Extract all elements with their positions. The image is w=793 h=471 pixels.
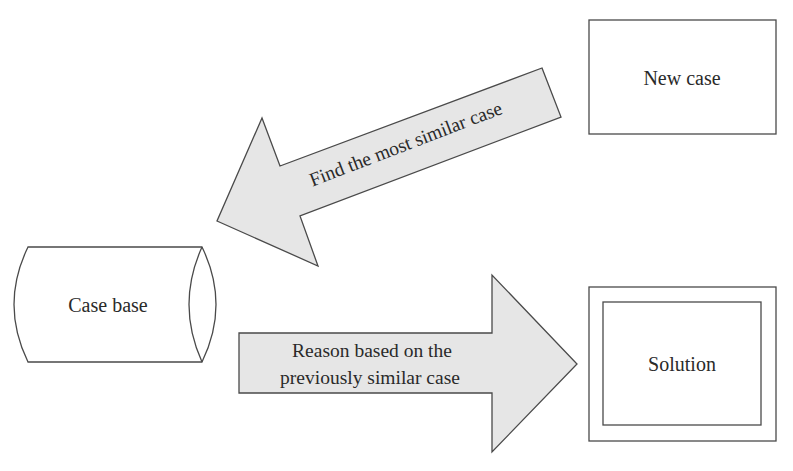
solution-label: Solution [648, 353, 716, 375]
new-case-label: New case [643, 67, 720, 89]
edge-find-similar: Find the most similar case [217, 68, 561, 266]
node-solution: Solution [589, 287, 776, 441]
reason-arrow-icon [239, 275, 577, 452]
edge-reason: Reason based on the previously similar c… [239, 275, 577, 452]
case-base-label: Case base [68, 294, 148, 316]
node-new-case: New case [589, 20, 776, 134]
reason-label-line1: Reason based on the [292, 340, 452, 361]
find-similar-arrow-icon [217, 68, 561, 266]
cbr-diagram: New case Find the most similar case Case… [0, 0, 793, 471]
node-case-base: Case base [14, 247, 216, 362]
reason-label-line2: previously similar case [280, 367, 460, 388]
